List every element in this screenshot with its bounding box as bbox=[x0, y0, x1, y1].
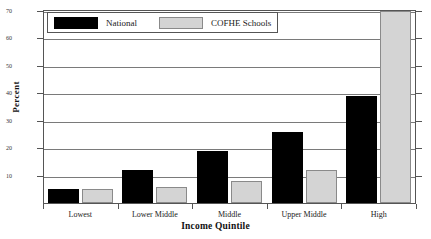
x-tick-mark bbox=[341, 204, 342, 209]
legend-item-cofhe-schools: COFHE Schools bbox=[159, 17, 271, 29]
y-tick-mark-right bbox=[416, 93, 422, 94]
x-category-label: Lowest bbox=[43, 210, 118, 219]
y-tick-label: 10 bbox=[0, 173, 12, 179]
y-tick-mark-right bbox=[416, 11, 422, 12]
x-category-label: Middle bbox=[192, 210, 267, 219]
x-tick-mark bbox=[43, 204, 44, 209]
y-tick-mark-right bbox=[416, 121, 422, 122]
grouped-bar-chart: Percent 10203040506070 LowestLower Middl… bbox=[0, 0, 431, 239]
x-tick-mark bbox=[267, 204, 268, 209]
bar-national-lower-middle bbox=[122, 170, 153, 203]
x-tick-mark bbox=[192, 204, 193, 209]
x-tick-mark bbox=[416, 204, 417, 209]
bar-cofhe-schools-lower-middle bbox=[156, 187, 187, 203]
bar-national-upper-middle bbox=[272, 132, 303, 203]
y-tick-label: 30 bbox=[0, 118, 12, 124]
x-axis-title: Income Quintile bbox=[0, 221, 431, 231]
bar-national-middle bbox=[197, 151, 228, 203]
y-tick-label: 50 bbox=[0, 63, 12, 69]
legend-item-national: National bbox=[54, 17, 137, 29]
y-tick-mark-right bbox=[416, 176, 422, 177]
y-tick-mark-right bbox=[416, 66, 422, 67]
y-tick-label: 60 bbox=[0, 35, 12, 41]
bar-cofhe-schools-high bbox=[380, 11, 411, 203]
bars-layer bbox=[43, 10, 416, 204]
bar-national-lowest bbox=[48, 189, 79, 203]
bar-cofhe-schools-lowest bbox=[82, 189, 113, 203]
gray-square-swatch-icon bbox=[159, 17, 203, 29]
x-tick-mark bbox=[118, 204, 119, 209]
y-tick-label: 40 bbox=[0, 90, 12, 96]
y-tick-label: 20 bbox=[0, 145, 12, 151]
legend-label: COFHE Schools bbox=[211, 18, 271, 28]
legend-label: National bbox=[106, 18, 137, 28]
chart-legend: National COFHE Schools bbox=[47, 12, 278, 33]
y-axis-title: Percent bbox=[11, 57, 21, 137]
black-square-swatch-icon bbox=[54, 17, 98, 29]
bar-cofhe-schools-upper-middle bbox=[306, 170, 337, 203]
y-tick-mark-right bbox=[416, 148, 422, 149]
x-category-label: Upper Middle bbox=[267, 210, 342, 219]
bar-cofhe-schools-middle bbox=[231, 181, 262, 203]
x-category-label: Lower Middle bbox=[118, 210, 193, 219]
x-category-label: High bbox=[341, 210, 416, 219]
y-tick-label: 70 bbox=[0, 8, 12, 14]
bar-national-high bbox=[346, 96, 377, 203]
y-tick-mark-right bbox=[416, 38, 422, 39]
